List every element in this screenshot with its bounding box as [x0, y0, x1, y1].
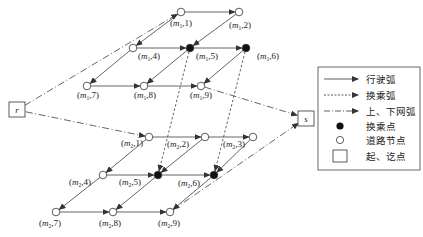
legend-label: 上、下网弧 — [366, 106, 416, 117]
transfer-arc-m1_6-m2_6 — [215, 52, 245, 171]
node-label-m2_3: (m2,3) — [223, 139, 245, 150]
node-label-m1_7: (m1,7) — [77, 90, 99, 101]
node-label-m2_7: (m2,7) — [39, 218, 61, 229]
road-node-m2_8 — [109, 208, 117, 216]
road-node-m2_4 — [99, 171, 107, 179]
legend-label: 换乘点 — [366, 121, 396, 132]
node-label-m2_6: (m2,6) — [178, 178, 200, 189]
transfer-node-m1_6 — [242, 44, 250, 52]
legend-label: 换乘弧 — [366, 90, 396, 101]
node-label-m1_2: (m1,2) — [229, 20, 251, 31]
origin-label: r — [15, 105, 19, 115]
node-label-m2_9: (m2,9) — [158, 218, 180, 229]
node-label-m2_2: (m2,2) — [167, 139, 189, 150]
legend-item-od-node: 起、讫点 — [333, 150, 406, 162]
node-label-m2_4: (m2,4) — [69, 177, 91, 188]
node-label-m1_4: (m1,4) — [138, 51, 160, 62]
road-node-m2_9 — [166, 208, 174, 216]
node-label-m1_8: (m1,8) — [134, 90, 156, 101]
node-label-m2_5: (m2,5) — [119, 177, 141, 188]
access-arc-m1_9-s — [205, 87, 297, 115]
destination-label: s — [304, 114, 308, 124]
node-label-m2_1: (m2,1) — [121, 138, 143, 149]
node-label-m1_9: (m1,9) — [190, 90, 212, 101]
open-circle-icon — [336, 136, 343, 143]
node-label-m1_6: (m1,6) — [257, 51, 279, 62]
node-label-m1_1: (m1,1) — [170, 18, 192, 29]
road-node-m2_1 — [145, 133, 153, 141]
transfer-node-m1_5 — [186, 44, 194, 52]
node-label-m2_8: (m2,8) — [99, 218, 121, 229]
transfer-node-m2_5 — [154, 171, 162, 179]
driving-arc-m1_4-m1_7 — [90, 50, 130, 83]
road-node-m2_3 — [249, 133, 257, 141]
filled-circle-icon — [336, 122, 343, 129]
origin-node-r: r — [9, 102, 25, 117]
transit-network-diagram: (m1,1)(m1,2)(m1,4)(m1,5)(m1,6)(m1,7)(m1,… — [0, 0, 423, 237]
road-node-m1_1 — [177, 8, 185, 16]
legend: 行驶弧 换乘弧 上、下网弧 换乘点 道路节点 起、讫点 — [318, 67, 420, 170]
road-node-m1_7 — [83, 82, 91, 90]
legend-label: 起、讫点 — [366, 151, 406, 162]
road-node-m2_2 — [201, 133, 209, 141]
road-node-m2_7 — [52, 208, 60, 216]
arcs — [25, 12, 298, 212]
transfer-node-m2_6 — [210, 171, 218, 179]
access-arc-r-m2_1 — [26, 112, 145, 136]
road-node-m1_2 — [235, 8, 243, 16]
road-node-m1_4 — [129, 44, 137, 52]
access-arc-m2_9-s — [173, 123, 298, 209]
legend-label: 道路节点 — [366, 135, 406, 146]
node-label-m1_5: (m1,5) — [196, 51, 218, 62]
destination-node-s: s — [298, 111, 314, 126]
square-icon — [333, 150, 347, 162]
road-node-m1_9 — [197, 82, 205, 90]
road-node-m1_8 — [140, 82, 148, 90]
legend-label: 行驶弧 — [366, 74, 396, 85]
